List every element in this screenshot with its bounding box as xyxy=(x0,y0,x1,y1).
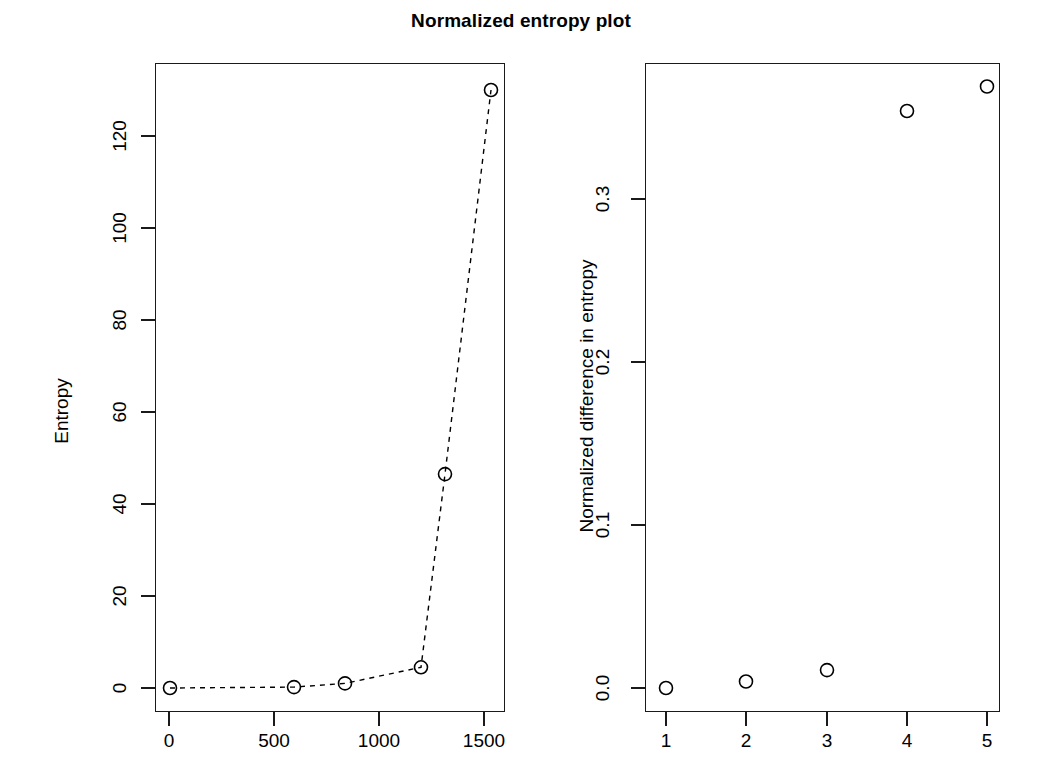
entropy-series-svg xyxy=(0,0,530,758)
entropy-panel: Entropy 0 20 40 60 80 100 120 0 500 1000… xyxy=(0,0,530,758)
norm-diff-point-5 xyxy=(981,80,994,93)
norm-diff-point-1 xyxy=(660,682,673,695)
norm-diff-point-3 xyxy=(821,664,834,677)
norm-diff-series-svg xyxy=(530,0,1042,758)
chart-page: Normalized entropy plot Entropy 0 20 40 … xyxy=(0,0,1042,758)
entropy-dashed-line xyxy=(170,90,491,688)
norm-diff-point-2 xyxy=(740,675,753,688)
norm-diff-point-4 xyxy=(901,105,914,118)
normalized-difference-panel: Normalized difference in entropy 0.0 0.1… xyxy=(530,0,1042,758)
